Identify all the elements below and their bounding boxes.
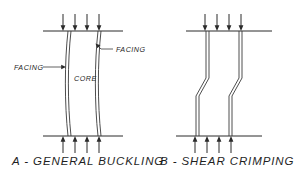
load-arrow-down: [203, 14, 208, 31]
load-arrow-up: [73, 136, 78, 153]
load-arrow-up: [61, 136, 66, 153]
load-arrow-down: [61, 14, 66, 31]
panel-b-right-facing-outer: [232, 31, 242, 136]
panel-b-left-facing-inner: [199, 31, 209, 136]
panel-a-facing-right-leader: [96, 43, 114, 49]
load-arrow-down: [73, 14, 78, 31]
load-arrow-up: [193, 136, 198, 153]
load-arrow-up: [205, 136, 210, 153]
load-arrow-down: [97, 14, 102, 31]
load-arrow-down: [239, 14, 244, 31]
panel-b-bottom-load-arrows: [193, 136, 234, 153]
load-arrow-down: [227, 14, 232, 31]
panel-a-bottom-load-arrows: [61, 136, 102, 153]
sandwich-panel-failure-diagram: FACING CORE FACING A - GENERAL BUCKLING: [0, 0, 298, 173]
panel-a-group: FACING CORE FACING A - GENERAL BUCKLING: [11, 14, 164, 167]
annotation-core: CORE: [74, 74, 97, 83]
panel-a-caption: A - GENERAL BUCKLING: [11, 155, 164, 167]
panel-b-right-facing-inner: [229, 31, 239, 136]
annotation-facing-right: FACING: [116, 45, 146, 54]
panel-b-top-load-arrows: [203, 14, 244, 31]
panel-a-left-facing-outer: [65, 31, 68, 136]
load-arrow-up: [217, 136, 222, 153]
diagram-canvas: FACING CORE FACING A - GENERAL BUCKLING: [0, 0, 298, 173]
load-arrow-up: [229, 136, 234, 153]
panel-a-facing-left-leader: [43, 65, 66, 69]
load-arrow-up: [97, 136, 102, 153]
panel-a-top-load-arrows: [61, 14, 102, 31]
annotation-facing-left: FACING: [14, 63, 44, 72]
panel-b-left-facing-outer: [196, 31, 206, 136]
panel-b-group: B - SHEAR CRIMPING: [160, 14, 294, 167]
panel-b-caption: B - SHEAR CRIMPING: [160, 155, 294, 167]
load-arrow-down: [85, 14, 90, 31]
panel-a-left-facing-inner: [68, 31, 71, 136]
load-arrow-up: [85, 136, 90, 153]
load-arrow-down: [215, 14, 220, 31]
